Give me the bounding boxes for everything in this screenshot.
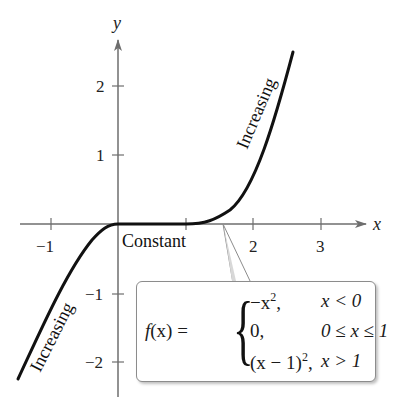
piecewise-definition-box: f(x) = { −x2, x < 0 0, 0 ≤ x ≤ 1 (x − 1)…: [136, 281, 376, 382]
constant-label: Constant: [122, 231, 186, 251]
x-tick-label-2: 2: [249, 237, 258, 256]
x-axis-label: x: [372, 214, 381, 234]
x-tick-label-3: 3: [316, 237, 325, 256]
y-tick-label-neg2: −2: [85, 353, 103, 372]
function-lhs: f(x) =: [145, 320, 188, 342]
case-row-2: 0,: [250, 320, 264, 342]
case-cond-3: x > 1: [321, 350, 361, 372]
callout-pointer: [223, 224, 251, 283]
x-tick-label-neg1: −1: [36, 237, 54, 256]
case-row-1: −x2,: [250, 290, 281, 314]
y-tick-label-2: 2: [96, 77, 105, 96]
y-axis-label: y: [111, 13, 121, 33]
case-cond-2: 0 ≤ x ≤ 1: [321, 320, 388, 342]
case-cond-1: x < 0: [321, 290, 361, 312]
y-tick-label-1: 1: [96, 146, 105, 165]
case-row-3: (x − 1)2,: [250, 350, 313, 374]
y-tick-label-neg1: −1: [85, 285, 103, 304]
increasing-label-right: Increasing: [232, 75, 280, 152]
